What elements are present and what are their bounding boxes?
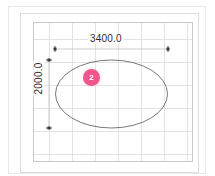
- width-dimension-label[interactable]: 3400.0: [88, 33, 124, 44]
- vertical-dimension-handle-top[interactable]: [48, 59, 51, 62]
- shape-number-badge[interactable]: 2: [83, 69, 100, 86]
- vertical-dimension-handle-bottom[interactable]: [48, 127, 51, 130]
- drawing-viewport: 3400.0 2000.0 2: [0, 0, 215, 176]
- height-dimension-label[interactable]: 2000.0: [33, 61, 44, 97]
- ellipse-shape[interactable]: [56, 60, 168, 128]
- geometry-overlay: [0, 0, 215, 176]
- horizontal-dimension-handle-right[interactable]: [167, 48, 170, 51]
- horizontal-dimension-handle-left[interactable]: [54, 48, 57, 51]
